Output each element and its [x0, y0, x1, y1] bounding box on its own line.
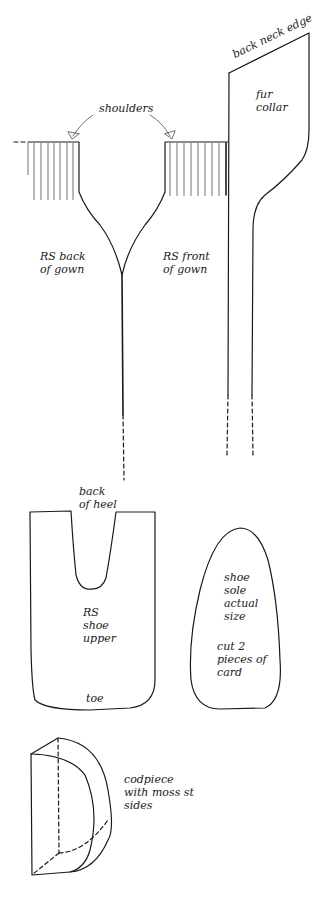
- center-seam: [122, 275, 124, 480]
- cut-instruction-label: cut 2 pieces of card: [217, 640, 267, 679]
- shoulder-arrows: [68, 115, 175, 139]
- codpiece-label: codpiece with moss st sides: [124, 773, 194, 812]
- toe-label: toe: [86, 692, 104, 705]
- shoe-sole-label: shoe sole actual size: [224, 571, 258, 623]
- rs-back-of-gown-label: RS back of gown: [40, 250, 86, 276]
- fur-collar-label: fur collar: [256, 88, 288, 114]
- back-of-heel-label: back of heel: [79, 485, 117, 511]
- codpiece-piece: [31, 738, 112, 875]
- shoulders-label: shoulders: [99, 102, 153, 115]
- rs-front-of-gown-label: RS front of gown: [163, 250, 210, 276]
- rs-shoe-upper-label: RS shoe upper: [83, 606, 116, 645]
